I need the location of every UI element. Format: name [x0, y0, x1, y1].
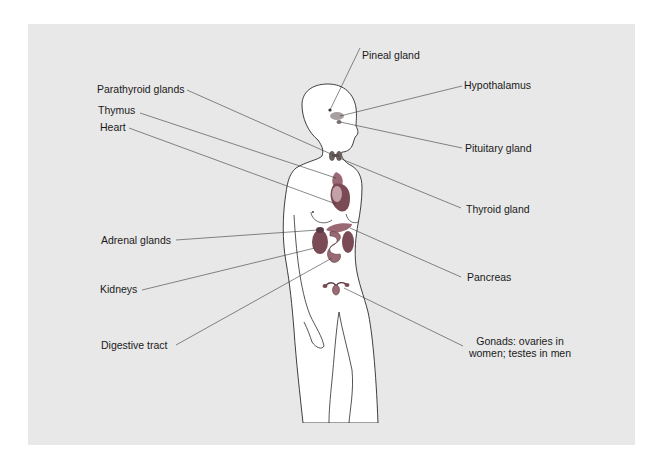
label-thymus: Thymus — [98, 104, 135, 116]
label-gonads: Gonads: ovaries in women; testes in men — [460, 335, 580, 359]
leader-hypothalamus — [340, 86, 462, 116]
label-adrenal-glands: Adrenal glands — [101, 234, 171, 246]
endocrine-diagram — [0, 0, 658, 459]
label-heart: Heart — [100, 121, 126, 133]
kidney-right-shape — [342, 231, 354, 253]
label-pineal-gland: Pineal gland — [362, 49, 420, 61]
leader-pancreas — [350, 228, 461, 277]
label-thyroid-gland: Thyroid gland — [466, 203, 530, 215]
label-parathyroid-glands: Parathyroid glands — [97, 83, 185, 95]
label-digestive-tract: Digestive tract — [101, 339, 168, 351]
label-kidneys: Kidneys — [100, 283, 137, 295]
label-pituitary-gland: Pituitary gland — [465, 142, 532, 154]
label-hypothalamus: Hypothalamus — [464, 79, 531, 91]
leader-pituitary — [340, 122, 462, 148]
kidney-left-shape — [312, 230, 328, 254]
hypothalamus-shape — [330, 112, 344, 120]
label-pancreas: Pancreas — [467, 271, 511, 283]
